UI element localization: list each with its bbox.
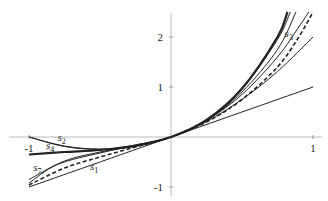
labels: s3s2s4s7s1 bbox=[33, 27, 293, 176]
series-label-s1: s1 bbox=[90, 160, 98, 175]
series-label-s3: s3 bbox=[285, 27, 293, 42]
y-tick-label: -1 bbox=[154, 181, 163, 193]
series-label-s4: s4 bbox=[46, 139, 54, 154]
y-tick-label: 1 bbox=[158, 81, 164, 93]
x-tick-label: 1 bbox=[310, 142, 316, 154]
series-convergence-chart: -1121-1 s3s2s4s7s1 bbox=[0, 0, 328, 201]
series-label-s7: s7 bbox=[33, 161, 41, 176]
curve-s3 bbox=[29, 12, 309, 180]
x-tick-label: -1 bbox=[24, 142, 33, 154]
series-label-s2: s2 bbox=[57, 131, 65, 146]
y-tick-label: 2 bbox=[158, 31, 164, 43]
